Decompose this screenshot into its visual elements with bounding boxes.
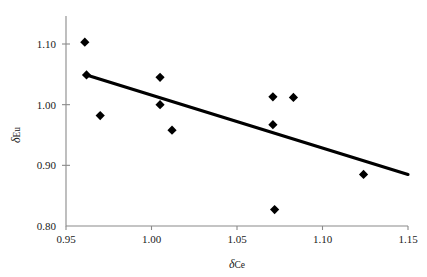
data-point [268, 120, 277, 129]
y-axis-title: δEu [9, 127, 23, 143]
data-point [82, 70, 91, 79]
x-title-element: Ce [235, 260, 246, 270]
y-axis-tick-labels: 0.800.901.001.10 [37, 38, 57, 232]
y-title-element: Eu [12, 127, 22, 138]
chart-container: 0.951.001.051.101.15 0.800.901.001.10 δC… [0, 0, 427, 277]
x-axis-tick-labels: 0.951.001.051.101.15 [56, 233, 418, 245]
svg-text:δEu: δEu [9, 127, 23, 143]
x-tick-label: 1.10 [313, 233, 333, 245]
x-tick-label: 1.15 [398, 233, 418, 245]
data-point [155, 100, 164, 109]
data-point [155, 73, 164, 82]
svg-text:δCe: δCe [229, 257, 245, 271]
data-point [80, 38, 89, 47]
data-point [289, 93, 298, 102]
y-tick-label: 0.90 [37, 159, 57, 171]
data-point [268, 92, 277, 101]
x-tick-label: 0.95 [56, 233, 76, 245]
trend-line-group [87, 75, 408, 174]
y-tick-label: 1.10 [37, 38, 57, 50]
x-axis-ticks [66, 226, 408, 230]
x-tick-label: 1.00 [142, 233, 162, 245]
data-point [167, 126, 176, 135]
y-tick-label: 0.80 [37, 220, 57, 232]
scatter-plot: 0.951.001.051.101.15 0.800.901.001.10 δC… [0, 0, 427, 277]
axes-group [62, 16, 408, 230]
data-point [359, 170, 368, 179]
data-point [96, 111, 105, 120]
x-axis-title: δCe [229, 257, 245, 271]
data-point-markers [80, 38, 368, 215]
x-tick-label: 1.05 [227, 233, 247, 245]
trend-line [87, 75, 408, 174]
data-point [270, 205, 279, 214]
y-tick-label: 1.00 [37, 99, 57, 111]
